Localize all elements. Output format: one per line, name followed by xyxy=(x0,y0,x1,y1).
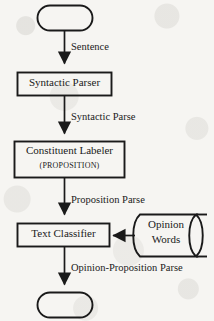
node-opinion-words-right-arc xyxy=(196,215,203,257)
diagram-vector-layer xyxy=(0,0,214,321)
flowchart-diagram: Syntactic Parser Constituent Labeler (PR… xyxy=(0,0,214,321)
node-constituent-labeler-box xyxy=(15,142,125,178)
node-start-terminator xyxy=(38,6,93,31)
node-text-classifier-box xyxy=(18,224,110,247)
node-syntactic-parser-box xyxy=(18,73,112,96)
node-end-terminator xyxy=(38,293,93,318)
node-opinion-words-shape xyxy=(133,215,196,257)
